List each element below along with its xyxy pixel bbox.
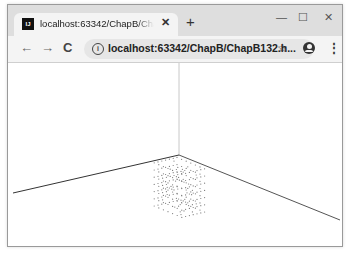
- tab-close-icon[interactable]: ✕: [161, 16, 170, 29]
- 3d-scene: [8, 63, 342, 247]
- webgl-canvas[interactable]: [8, 63, 342, 246]
- close-window-button[interactable]: ✕: [324, 11, 333, 24]
- browser-window: IJ localhost:63342/ChapB/ChapB132.html ✕…: [7, 4, 343, 247]
- intellij-favicon-icon: IJ: [22, 18, 34, 30]
- x-axis-line: [13, 155, 179, 193]
- point-cloud: [154, 157, 206, 218]
- url-text[interactable]: localhost:63342/ChapB/ChapB132.h...: [108, 42, 296, 54]
- new-tab-button[interactable]: +: [186, 14, 195, 29]
- profile-avatar-icon[interactable]: [303, 42, 315, 54]
- bookmark-star-icon[interactable]: ☆: [277, 41, 288, 55]
- z-axis-line: [179, 155, 340, 220]
- browser-tab[interactable]: IJ localhost:63342/ChapB/ChapB132.html ✕: [14, 13, 178, 36]
- tab-title: localhost:63342/ChapB/ChapB132.html: [40, 18, 154, 29]
- maximize-button[interactable]: ☐: [298, 11, 308, 24]
- title-bar: IJ localhost:63342/ChapB/ChapB132.html ✕…: [8, 5, 342, 36]
- menu-kebab-icon[interactable]: ⋮: [328, 41, 340, 55]
- info-icon[interactable]: i: [92, 43, 104, 55]
- browser-toolbar: ← → C i localhost:63342/ChapB/ChapB132.h…: [8, 36, 342, 63]
- reload-button[interactable]: C: [63, 40, 72, 55]
- minimize-button[interactable]: —: [276, 11, 287, 23]
- back-button[interactable]: ←: [20, 40, 33, 55]
- forward-button[interactable]: →: [41, 40, 54, 55]
